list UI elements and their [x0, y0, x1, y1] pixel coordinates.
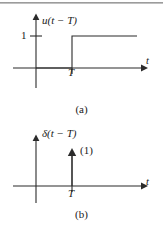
figure-b-x-tick-label: T	[68, 188, 74, 199]
figure-b-function-label: δ(t − T)	[42, 128, 77, 139]
figure-b-plot	[0, 126, 163, 206]
figure-a-caption: (a)	[0, 103, 163, 115]
figure-b-y-axis-arrowhead	[33, 135, 40, 142]
page-top-rule	[0, 2, 163, 4]
figure-b-x-axis-label: t	[146, 177, 149, 188]
figure-a-x-axis-label: t	[146, 56, 149, 67]
figure-a-plot	[0, 12, 163, 100]
figure-a-y-axis-arrowhead	[33, 14, 40, 21]
figure-a-y-tick-label: 1	[21, 30, 27, 41]
figure-b: δ(t − T) (1) T t (b)	[0, 126, 163, 236]
figure-b-caption: (b)	[0, 208, 163, 220]
figure-a: u(t − T) 1 T t (a)	[0, 12, 163, 117]
figure-a-function-label: u(t − T)	[42, 15, 77, 26]
figure-a-step-curve	[36, 36, 137, 68]
figure-page: u(t − T) 1 T t (a) δ(t − T) (1) T t (b)	[0, 0, 163, 236]
figure-b-impulse-weight-label: (1)	[80, 145, 93, 156]
figure-a-x-tick-label: T	[68, 67, 74, 78]
figure-b-impulse-arrowhead	[68, 148, 76, 156]
